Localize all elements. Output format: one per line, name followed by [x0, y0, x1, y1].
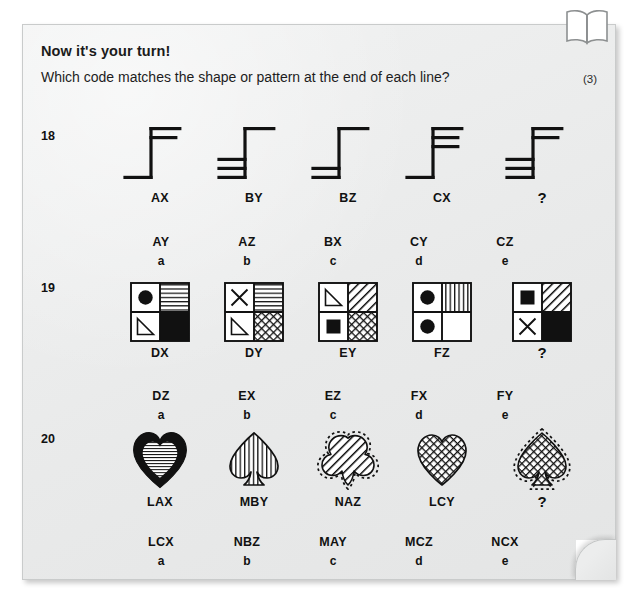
option-code: NCX — [477, 535, 533, 549]
option-code: AY — [133, 235, 189, 249]
worksheet-card: Now it's your turn! Which code matches t… — [22, 24, 616, 580]
answer-placeholder: ? — [501, 344, 583, 361]
figure-20-1: LAX — [119, 425, 201, 509]
option-letter: c — [305, 554, 361, 568]
option-letter: a — [133, 254, 189, 268]
option-letter: d — [391, 408, 447, 422]
option-letter: e — [477, 554, 533, 568]
page-corner-fold — [576, 540, 616, 580]
figure-glyph-dy — [213, 276, 295, 344]
option-code: NBZ — [219, 535, 275, 549]
figure-20-2: MBY — [213, 425, 295, 509]
figure-20-4: LCY — [401, 425, 483, 509]
figure-18-2: BY — [213, 121, 295, 205]
page-title: Now it's your turn! — [41, 43, 615, 59]
figure-19-2: DY — [213, 276, 295, 360]
option-code: CZ — [477, 235, 533, 249]
option-letter: a — [133, 554, 189, 568]
figure-code-label: CX — [401, 191, 483, 205]
figure-glyph-cx — [401, 121, 483, 189]
open-book-icon — [561, 6, 613, 48]
option-18-a[interactable]: AYa — [133, 235, 189, 268]
option-19-a[interactable]: DZa — [133, 389, 189, 422]
figure-glyph-answer-slot — [501, 425, 583, 493]
figure-glyph-lcy — [401, 425, 483, 493]
figure-glyph-ax — [119, 121, 201, 189]
figure-glyph-mby — [213, 425, 295, 493]
option-code: MAY — [305, 535, 361, 549]
option-code: BX — [305, 235, 361, 249]
figure-18-5: ? — [501, 121, 583, 206]
figure-glyph-answer-slot — [501, 121, 583, 189]
option-letter: d — [391, 554, 447, 568]
option-letter: e — [477, 254, 533, 268]
figure-19-5: ? — [501, 276, 583, 361]
figure-code-label: EY — [307, 346, 389, 360]
figure-code-label: DX — [119, 346, 201, 360]
figure-glyph-bz — [307, 121, 389, 189]
instruction-text: Which code matches the shape or pattern … — [41, 69, 615, 85]
option-18-b[interactable]: AZb — [219, 235, 275, 268]
figure-glyph-dx — [119, 276, 201, 344]
option-20-c[interactable]: MAYc — [305, 535, 361, 568]
option-code: LCX — [133, 535, 189, 549]
option-18-d[interactable]: CYd — [391, 235, 447, 268]
figure-19-4: FZ — [401, 276, 483, 360]
option-letter: a — [133, 408, 189, 422]
figure-glyph-ey — [307, 276, 389, 344]
figure-code-label: FZ — [401, 346, 483, 360]
figure-18-4: CX — [401, 121, 483, 205]
figure-code-label: AX — [119, 191, 201, 205]
option-19-e[interactable]: FYe — [477, 389, 533, 422]
option-code: MCZ — [391, 535, 447, 549]
marks-label: (3) — [583, 73, 597, 85]
option-code: AZ — [219, 235, 275, 249]
option-letter: d — [391, 254, 447, 268]
figure-code-label: BZ — [307, 191, 389, 205]
option-19-c[interactable]: EZc — [305, 389, 361, 422]
question-number-19: 19 — [41, 281, 55, 295]
option-19-d[interactable]: FXd — [391, 389, 447, 422]
figure-glyph-naz — [307, 425, 389, 493]
option-18-e[interactable]: CZe — [477, 235, 533, 268]
figure-20-5: ? — [501, 425, 583, 510]
figure-glyph-answer-slot — [501, 276, 583, 344]
figure-19-3: EY — [307, 276, 389, 360]
answer-placeholder: ? — [501, 493, 583, 510]
figure-18-1: AX — [119, 121, 201, 205]
option-letter: c — [305, 254, 361, 268]
option-code: FX — [391, 389, 447, 403]
figure-code-label: MBY — [213, 495, 295, 509]
question-number-18: 18 — [41, 129, 55, 143]
option-20-e[interactable]: NCXe — [477, 535, 533, 568]
figure-20-3: NAZ — [307, 425, 389, 509]
figure-19-1: DX — [119, 276, 201, 360]
option-code: CY — [391, 235, 447, 249]
figure-glyph-lax — [119, 425, 201, 493]
option-letter: b — [219, 254, 275, 268]
figure-code-label: BY — [213, 191, 295, 205]
option-20-d[interactable]: MCZd — [391, 535, 447, 568]
option-letter: c — [305, 408, 361, 422]
question-number-20: 20 — [41, 432, 55, 446]
option-19-b[interactable]: EXb — [219, 389, 275, 422]
option-code: FY — [477, 389, 533, 403]
option-code: EX — [219, 389, 275, 403]
option-20-a[interactable]: LCXa — [133, 535, 189, 568]
figure-glyph-fz — [401, 276, 483, 344]
option-20-b[interactable]: NBZb — [219, 535, 275, 568]
option-letter: b — [219, 408, 275, 422]
option-code: EZ — [305, 389, 361, 403]
figure-code-label: DY — [213, 346, 295, 360]
option-letter: b — [219, 554, 275, 568]
answer-placeholder: ? — [501, 189, 583, 206]
option-code: DZ — [133, 389, 189, 403]
option-letter: e — [477, 408, 533, 422]
figure-code-label: NAZ — [307, 495, 389, 509]
figure-18-3: BZ — [307, 121, 389, 205]
option-18-c[interactable]: BXc — [305, 235, 361, 268]
figure-code-label: LAX — [119, 495, 201, 509]
figure-glyph-by — [213, 121, 295, 189]
figure-code-label: LCY — [401, 495, 483, 509]
